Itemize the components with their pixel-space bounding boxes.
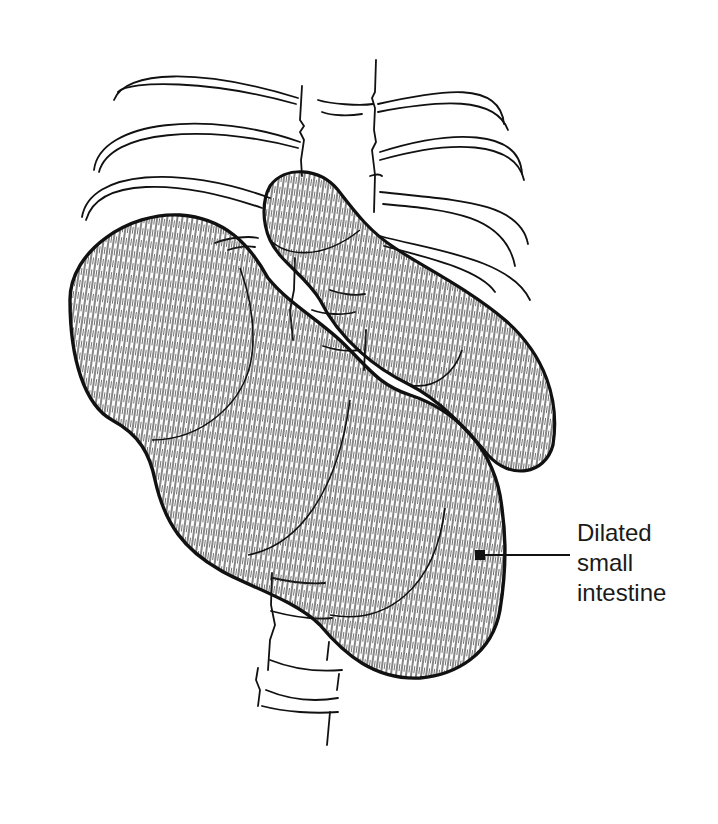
label-line-3: intestine — [577, 578, 666, 608]
label-line-2: small — [577, 548, 666, 578]
abdominal-diagram — [0, 0, 718, 824]
arrowhead-icon — [475, 550, 485, 560]
dilated-small-intestine-label: Dilated small intestine — [577, 518, 666, 608]
label-line-1: Dilated — [577, 518, 666, 548]
